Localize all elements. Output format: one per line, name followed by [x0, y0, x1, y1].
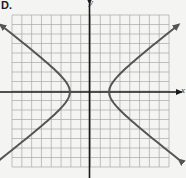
panel-label: D. [1, 0, 12, 11]
graph-canvas [0, 0, 186, 178]
grid-lines [12, 15, 169, 167]
y-axis-label: y [89, 0, 93, 7]
x-axis-label: x [181, 85, 185, 95]
